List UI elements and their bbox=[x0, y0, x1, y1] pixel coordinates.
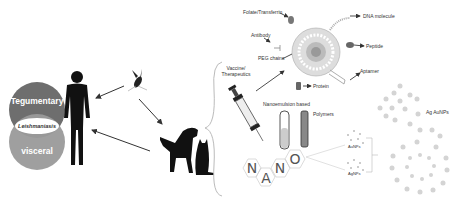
antibody-arrow bbox=[264, 38, 270, 42]
aptamer-icon bbox=[329, 70, 345, 84]
folate-arrow bbox=[280, 13, 288, 17]
cat-icon bbox=[195, 139, 214, 175]
aunp-label: AuNPs bbox=[348, 144, 360, 149]
nano-letter-a: A bbox=[261, 170, 271, 186]
syringe-icon bbox=[227, 84, 267, 144]
curly-brace bbox=[205, 62, 222, 196]
agnp-label: AgNPs bbox=[348, 171, 360, 176]
connector-aunp bbox=[306, 145, 345, 157]
arrow-fly-to-dog bbox=[139, 99, 162, 124]
dna-icon bbox=[330, 18, 350, 30]
ring-structure bbox=[390, 140, 450, 195]
vaccine-label-2: Therapeutics bbox=[222, 71, 251, 77]
nano-letter-o: O bbox=[289, 151, 300, 167]
antibody-label: Antibody bbox=[251, 32, 271, 38]
test-tube-icon bbox=[280, 111, 289, 149]
polymers-label: Polymers bbox=[313, 111, 334, 117]
peg-label: PEG chains bbox=[258, 55, 285, 61]
folate-icon bbox=[288, 16, 294, 24]
nanoemulsion-label: Nanoemulsion based bbox=[263, 101, 310, 107]
arrow-dog-to-human bbox=[92, 130, 150, 151]
ag-aunp-label: Ag AuNPs bbox=[426, 109, 449, 115]
protein-icon bbox=[296, 82, 301, 90]
human-icon bbox=[64, 71, 90, 165]
venn-top-label: Tegumentary bbox=[11, 96, 64, 106]
venn-bottom-label: visceral bbox=[21, 146, 53, 156]
connector-agnp bbox=[306, 157, 345, 170]
venn-middle-label: Leishmaniasis bbox=[18, 123, 56, 129]
dna-label: DNA molecule bbox=[363, 13, 395, 19]
venn-diagram: Tegumentary Leishmaniasis visceral bbox=[9, 82, 65, 170]
nano-letter-n2: N bbox=[275, 160, 285, 176]
peptide-label: Peptide bbox=[366, 43, 383, 49]
antibody-icon bbox=[274, 45, 280, 51]
aunp-cluster bbox=[347, 130, 364, 144]
aptamer-label: Aptamer bbox=[360, 68, 379, 74]
arrow-fly-to-human bbox=[96, 86, 124, 98]
protein-label: Protein bbox=[313, 83, 329, 89]
polymer-tube-icon bbox=[301, 111, 308, 147]
agnp-cluster bbox=[347, 159, 364, 171]
peptide-arrow bbox=[354, 45, 364, 46]
dog-icon bbox=[160, 128, 198, 173]
vaccine-arrow bbox=[256, 71, 284, 91]
nano-letter-n1: N bbox=[247, 160, 257, 176]
sandfly-icon bbox=[128, 69, 147, 91]
bracket bbox=[366, 138, 378, 172]
folate-label: Folate/Transferrin bbox=[243, 9, 282, 15]
peptide-icon bbox=[346, 42, 354, 48]
liposome-icon bbox=[292, 28, 340, 76]
aptamer-arrow bbox=[350, 73, 360, 80]
